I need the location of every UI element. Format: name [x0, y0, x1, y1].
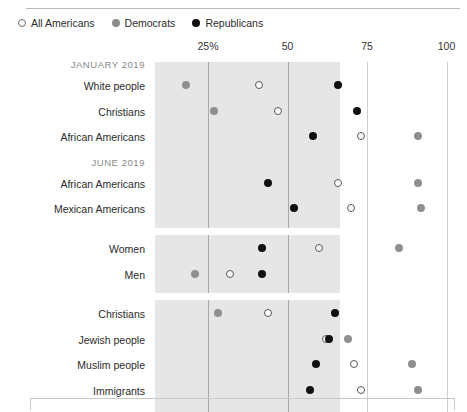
row-label: Jewish people — [5, 334, 145, 346]
group-separator — [155, 293, 340, 300]
filled-circle-icon — [112, 19, 120, 27]
data-point — [210, 107, 218, 115]
data-point — [306, 386, 314, 394]
data-point — [214, 309, 222, 317]
data-point — [290, 204, 298, 212]
top-divider — [26, 8, 460, 9]
data-point — [347, 204, 355, 212]
data-point — [312, 360, 320, 368]
row-label: African Americans — [5, 178, 145, 190]
legend-label-all-americans: All Americans — [31, 17, 95, 29]
dot-plot: 25%5075100 JANUARY 2019White peopleChris… — [0, 34, 467, 394]
data-point — [414, 132, 422, 140]
data-point — [274, 107, 282, 115]
gridline-75 — [367, 62, 368, 412]
data-point — [408, 360, 416, 368]
x-axis-tick-label: 25% — [197, 40, 218, 52]
group-label: JUNE 2019 — [5, 157, 145, 168]
x-axis-tick-label: 75 — [361, 40, 373, 52]
row-label: Muslim people — [5, 359, 145, 371]
data-point — [315, 244, 323, 252]
legend-item-all-americans: All Americans — [18, 17, 95, 29]
bottom-divider-tick-right — [454, 398, 455, 410]
data-point — [414, 179, 422, 187]
gridline-100 — [447, 62, 448, 412]
data-point — [226, 270, 234, 278]
data-point — [357, 386, 365, 394]
x-axis-tick-label: 100 — [438, 40, 456, 52]
row-label: Christians — [5, 106, 145, 118]
plot-shaded-band — [155, 62, 340, 412]
group-label: JANUARY 2019 — [5, 59, 145, 70]
legend-item-republicans: Republicans — [192, 17, 263, 29]
gridline-50 — [288, 62, 289, 412]
data-point — [258, 244, 266, 252]
data-point — [350, 360, 358, 368]
data-point — [334, 179, 342, 187]
data-point — [331, 309, 339, 317]
data-point — [334, 81, 342, 89]
row-label: African Americans — [5, 131, 145, 143]
data-point — [309, 132, 317, 140]
row-label: Women — [5, 243, 145, 255]
data-point — [325, 335, 333, 343]
legend-label-democrats: Democrats — [125, 17, 176, 29]
gridline-25 — [208, 62, 209, 412]
data-point — [258, 270, 266, 278]
x-axis-tick-label: 50 — [282, 40, 294, 52]
data-point — [357, 132, 365, 140]
legend: All Americans Democrats Republicans — [18, 17, 263, 29]
data-point — [182, 81, 190, 89]
data-point — [353, 107, 361, 115]
row-label: Christians — [5, 308, 145, 320]
row-label: Mexican Americans — [5, 203, 145, 215]
bottom-divider-tick-left — [30, 398, 31, 410]
legend-item-democrats: Democrats — [112, 17, 176, 29]
data-point — [344, 335, 352, 343]
row-label: Immigrants — [5, 385, 145, 397]
data-point — [255, 81, 263, 89]
data-point — [264, 179, 272, 187]
data-point — [191, 270, 199, 278]
data-point — [417, 204, 425, 212]
data-point — [264, 309, 272, 317]
row-label: Men — [5, 269, 145, 281]
filled-circle-icon — [192, 19, 200, 27]
data-point — [414, 386, 422, 394]
data-point — [395, 244, 403, 252]
legend-label-republicans: Republicans — [205, 17, 263, 29]
open-circle-icon — [18, 19, 26, 27]
bottom-divider — [30, 398, 454, 399]
group-separator — [155, 228, 340, 235]
row-label: White people — [5, 80, 145, 92]
